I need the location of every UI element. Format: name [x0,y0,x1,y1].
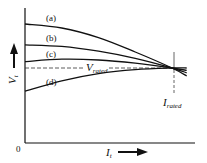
x-axis-label: It [105,146,113,160]
y-axis-arrow-icon [10,43,18,68]
curve-label-a: (a) [46,13,56,23]
rated-current-label: Irated [162,96,182,110]
curve-label-c: (c) [46,49,56,59]
y-axis-label: Vt [6,74,20,84]
origin-label: 0 [16,144,21,154]
x-axis-arrow-icon [118,148,148,156]
diagram: Vt 0 It Vrated Irated (a)(b)(c)(d) [0,0,207,163]
curve-label-b: (b) [46,33,57,43]
curve-label-d: (d) [46,77,57,87]
